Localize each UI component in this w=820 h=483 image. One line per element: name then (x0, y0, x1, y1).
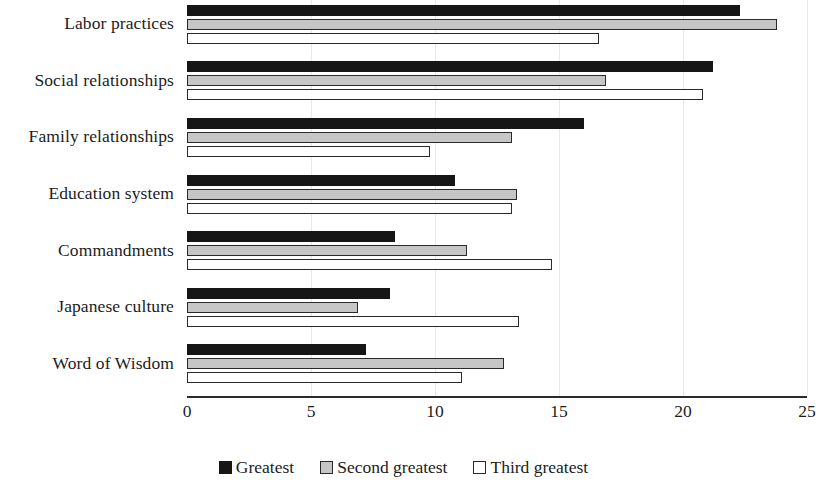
category-label: Commandments (0, 242, 174, 260)
x-tick-label: 0 (157, 401, 217, 422)
chart-legend: GreatestSecond greatestThird greatest (0, 452, 807, 483)
legend-item[interactable]: Greatest (219, 459, 294, 477)
bar (187, 288, 390, 299)
bar (187, 372, 462, 383)
category-label: Japanese culture (0, 298, 174, 316)
bar (187, 61, 713, 72)
bar (187, 146, 430, 157)
gridline (807, 0, 808, 396)
bar-group (187, 118, 807, 157)
category-label: Social relationships (0, 72, 174, 90)
bar (187, 358, 504, 369)
category-axis: Labor practicesSocial relationshipsFamil… (0, 0, 180, 396)
x-tick-label: 5 (281, 401, 341, 422)
bar (187, 245, 467, 256)
bar (187, 19, 777, 30)
x-axis-tick-labels: 0510152025 (0, 401, 807, 429)
bar (187, 344, 366, 355)
legend-swatch-greatest (219, 461, 232, 474)
x-tick-label: 25 (777, 401, 820, 422)
bar (187, 89, 703, 100)
bar (187, 203, 512, 214)
bar (187, 5, 740, 16)
bar (187, 132, 512, 143)
x-tick-label: 10 (405, 401, 465, 422)
bar-group (187, 288, 807, 327)
legend-label: Second greatest (337, 459, 447, 477)
bar (187, 33, 599, 44)
bar (187, 316, 519, 327)
x-axis-line (187, 396, 807, 398)
category-label: Education system (0, 185, 174, 203)
bar-group (187, 344, 807, 383)
legend-label: Greatest (236, 459, 294, 477)
bar (187, 118, 584, 129)
bar (187, 302, 358, 313)
x-tick-label: 15 (529, 401, 589, 422)
legend-item[interactable]: Third greatest (473, 459, 588, 477)
bar (187, 175, 455, 186)
bar (187, 189, 517, 200)
x-tick-label: 20 (653, 401, 713, 422)
legend-item[interactable]: Second greatest (320, 459, 447, 477)
bar (187, 231, 395, 242)
legend-label: Third greatest (490, 459, 588, 477)
bar-group (187, 61, 807, 100)
category-label: Family relationships (0, 128, 174, 146)
legend-swatch-second (320, 461, 333, 474)
bar (187, 259, 552, 270)
bar-group (187, 231, 807, 270)
category-label: Word of Wisdom (0, 355, 174, 373)
plot-area (187, 0, 807, 396)
bar-group (187, 5, 807, 44)
bar-group (187, 175, 807, 214)
bar (187, 75, 606, 86)
legend-swatch-third (473, 461, 486, 474)
category-label: Labor practices (0, 15, 174, 33)
